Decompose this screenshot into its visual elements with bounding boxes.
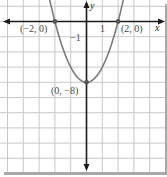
point-label-left: (−2, 0) [20,24,47,34]
x-axis-label: x [155,23,159,33]
y-axis-label: y [90,1,94,11]
x-tick-label: 1 [100,24,105,34]
point-label-right: (2, 0) [121,24,143,34]
point-label-vertex: (0, −8) [51,86,78,96]
y-tick-label: −1 [70,33,81,43]
